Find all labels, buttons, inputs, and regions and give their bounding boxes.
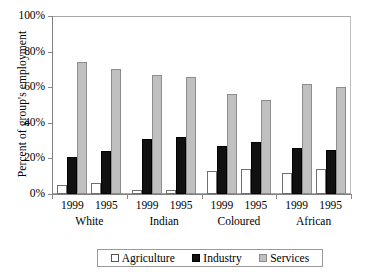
y-axis-tick-60: 60% (3, 81, 45, 93)
bar-white-1995-agriculture (91, 183, 101, 194)
y-axis-tick-mark-80 (48, 52, 52, 53)
services-swatch-icon (259, 254, 267, 262)
y-axis-tick-mark-100 (48, 16, 52, 17)
x-axis-group-label-white: White (49, 215, 129, 228)
bar-indian-1995-agriculture (166, 190, 176, 194)
y-axis-line (52, 16, 53, 195)
bar-african-1995-industry (326, 150, 336, 195)
employment-by-population-group-chart: Percent of group's employment 100%80%60%… (0, 0, 372, 274)
legend-entry-industry: Industry (192, 252, 241, 264)
y-axis-tick-mark-60 (48, 87, 52, 88)
bar-indian-1999-industry (142, 139, 152, 194)
y-axis-tick-80: 80% (3, 46, 45, 58)
y-axis-tick-100: 100% (3, 10, 45, 22)
bar-african-1999-agriculture (282, 173, 292, 194)
y-axis-tick-mark-20 (48, 158, 52, 159)
bar-white-1995-services (111, 69, 121, 194)
bar-african-1995-agriculture (316, 169, 326, 194)
x-axis-group-label-indian: Indian (124, 215, 204, 228)
x-axis-year-label-coloured-1995: 1995 (236, 199, 276, 212)
x-axis-year-label-indian-1995: 1995 (161, 199, 201, 212)
x-axis-group-separator-1 (202, 194, 203, 199)
x-axis-group-separator-3 (351, 194, 352, 199)
agriculture-swatch-icon (111, 254, 119, 262)
x-axis-year-label-african-1995: 1995 (311, 199, 351, 212)
industry-swatch-icon (192, 254, 200, 262)
bar-african-1999-services (302, 84, 312, 194)
x-axis-group-separator-start (52, 194, 53, 199)
y-axis-tick-0: 0% (3, 188, 45, 200)
bar-coloured-1995-agriculture (241, 169, 251, 194)
chart-legend: AgricultureIndustryServices (97, 249, 323, 267)
bar-indian-1999-agriculture (132, 190, 142, 194)
bar-white-1999-services (77, 62, 87, 194)
bar-white-1999-industry (67, 157, 77, 194)
bar-white-1995-industry (101, 151, 111, 194)
legend-label-agriculture: Agriculture (122, 252, 175, 264)
bar-coloured-1995-services (261, 100, 271, 194)
bar-african-1999-industry (292, 148, 302, 194)
legend-label-industry: Industry (203, 252, 241, 264)
x-axis-group-label-coloured: Coloured (199, 215, 279, 228)
y-axis-tick-40: 40% (3, 117, 45, 129)
x-axis-group-separator-2 (276, 194, 277, 199)
y-axis-tick-20: 20% (3, 152, 45, 164)
bar-indian-1995-industry (176, 137, 186, 194)
legend-entry-services: Services (259, 252, 309, 264)
legend-label-services: Services (270, 252, 309, 264)
bar-coloured-1995-industry (251, 142, 261, 194)
y-axis-tick-mark-40 (48, 123, 52, 124)
bar-african-1995-services (336, 87, 346, 194)
bar-coloured-1999-industry (217, 146, 227, 194)
x-axis-year-label-white-1995: 1995 (86, 199, 126, 212)
y-axis-tick-labels: 100%80%60%40%20%0% (0, 0, 45, 274)
bar-indian-1995-services (186, 77, 196, 194)
bar-coloured-1999-services (227, 94, 237, 194)
bar-white-1999-agriculture (57, 185, 67, 194)
x-axis-group-label-african: African (274, 215, 354, 228)
bar-indian-1999-services (152, 75, 162, 194)
x-axis-group-separator-0 (127, 194, 128, 199)
legend-entry-agriculture: Agriculture (111, 252, 175, 264)
bar-coloured-1999-agriculture (207, 171, 217, 194)
